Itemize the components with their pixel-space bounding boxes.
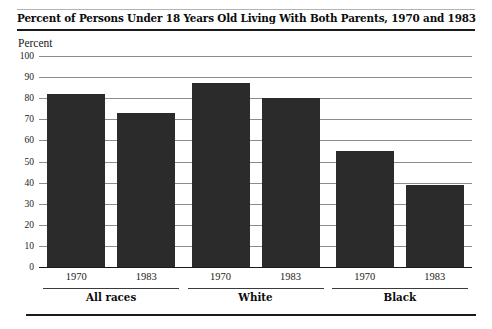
category-axis: 197019831970198319701983 All racesWhiteB… <box>39 267 472 312</box>
bar-white-1983 <box>262 98 320 267</box>
y-axis-tick-90: 90 <box>25 72 35 82</box>
year-label-black-1983: 1983 <box>406 271 464 282</box>
year-label-all-races-1983: 1983 <box>117 271 175 282</box>
gridline-100: 100 <box>39 56 472 57</box>
y-axis-caption: Percent <box>18 37 52 49</box>
title-underline-divider <box>17 29 475 31</box>
bar-white-1970 <box>192 83 250 267</box>
chart-title: Percent of Persons Under 18 Years Old Li… <box>17 12 479 25</box>
bottom-divider <box>26 314 476 316</box>
y-axis-tick-60: 60 <box>25 135 35 145</box>
year-label-all-races-1970: 1970 <box>47 271 105 282</box>
y-axis-tick-70: 70 <box>25 114 35 124</box>
group-rule-all-races <box>43 288 179 289</box>
y-axis-tick-50: 50 <box>25 156 35 166</box>
chart-figure: Percent of Persons Under 18 Years Old Li… <box>0 0 492 329</box>
gridline-90: 90 <box>39 77 472 78</box>
group-rule-white <box>188 288 324 289</box>
year-label-white-1970: 1970 <box>192 271 250 282</box>
group-label-white: White <box>188 291 324 303</box>
top-divider <box>17 9 475 10</box>
y-axis-tick-80: 80 <box>25 93 35 103</box>
bar-all-races-1970 <box>47 94 105 267</box>
bar-all-races-1983 <box>117 113 175 267</box>
bar-black-1970 <box>336 151 394 267</box>
y-axis-tick-100: 100 <box>20 51 34 61</box>
plot-area: 0102030405060708090100 <box>39 56 472 267</box>
y-axis-tick-30: 30 <box>25 198 35 208</box>
y-axis-tick-40: 40 <box>25 177 35 187</box>
year-label-black-1970: 1970 <box>336 271 394 282</box>
y-axis-tick-0: 0 <box>29 262 34 272</box>
y-axis-tick-20: 20 <box>25 220 35 230</box>
group-rule-black <box>332 288 468 289</box>
y-axis-tick-10: 10 <box>25 241 35 251</box>
group-label-all-races: All races <box>43 291 179 303</box>
group-label-black: Black <box>332 291 468 303</box>
year-label-white-1983: 1983 <box>262 271 320 282</box>
bar-black-1983 <box>406 185 464 267</box>
